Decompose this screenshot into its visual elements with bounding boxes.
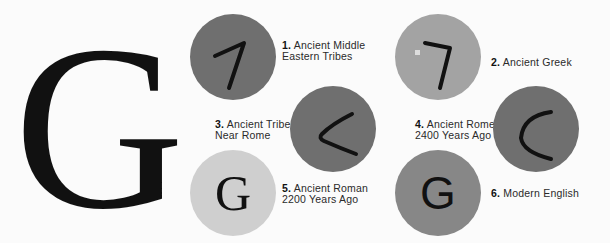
roman-g-glyph: G <box>190 150 276 236</box>
stage-2-circle <box>395 14 481 100</box>
stage-5-circle: G <box>190 150 276 236</box>
modern-g-glyph: G <box>395 150 481 236</box>
gamma-glyph-icon <box>395 14 481 100</box>
stage-6-circle: G <box>395 150 481 236</box>
large-letter-g: G <box>14 28 180 228</box>
stage-4-circle <box>493 86 579 172</box>
angle-glyph-icon <box>290 86 376 172</box>
stage-1-label: 1. Ancient MiddleEastern Tribes <box>282 40 365 62</box>
stage-3-label: 3. Ancient TribeNear Rome <box>215 119 291 141</box>
seven-shape-glyph-icon <box>190 14 276 100</box>
stage-4-label: 4. Ancient Rome2400 Years Ago <box>415 119 495 141</box>
stage-2-label: 2. Ancient Greek <box>491 57 572 68</box>
stage-6-label: 6. Modern English <box>491 188 579 199</box>
stage-1-circle <box>190 14 276 100</box>
stage-3-circle <box>290 86 376 172</box>
c-curve-glyph-icon <box>493 86 579 172</box>
stage-5-label: 5. Ancient Roman2200 Years Ago <box>282 183 368 205</box>
